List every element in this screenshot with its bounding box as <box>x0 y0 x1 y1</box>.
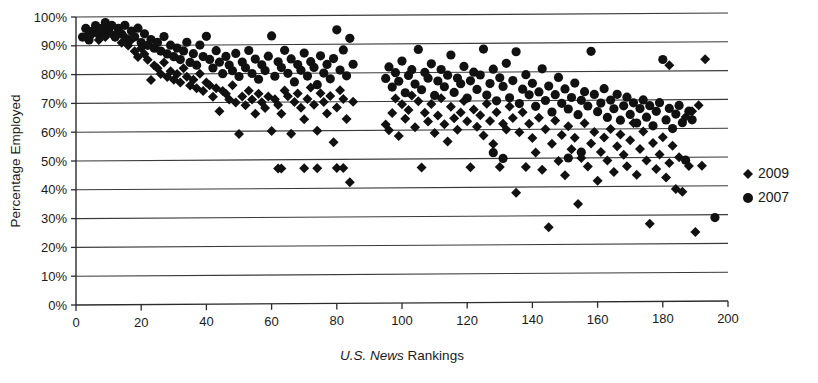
data-point-2007 <box>205 55 214 64</box>
data-point-2007 <box>394 77 403 86</box>
data-point-2007 <box>531 102 540 111</box>
y-tick-label: 60% <box>41 125 67 140</box>
chart-canvas: 0%10%20%30%40%50%60%70%80%90%100% 020406… <box>0 0 818 383</box>
data-point-2007 <box>596 98 605 107</box>
data-point-2007 <box>593 107 602 116</box>
data-point-2007 <box>440 82 449 91</box>
data-point-2007 <box>498 154 507 163</box>
data-point-2007 <box>554 73 563 82</box>
y-tick-label: 50% <box>41 154 67 169</box>
legend-marker-2007 <box>743 193 753 203</box>
data-point-2007 <box>427 59 436 68</box>
data-point-2007 <box>309 63 318 72</box>
data-point-2007 <box>655 98 664 107</box>
data-point-2007 <box>234 72 243 81</box>
data-point-2007 <box>482 91 491 100</box>
data-point-2007 <box>332 25 341 34</box>
x-tick-label: 80 <box>330 313 344 328</box>
data-point-2007 <box>218 69 227 78</box>
y-tick-label: 90% <box>41 38 67 53</box>
data-point-2007 <box>339 45 348 54</box>
data-point-2007 <box>652 107 661 116</box>
data-point-2007 <box>479 44 488 53</box>
data-point-2007 <box>290 77 299 86</box>
data-point-2007 <box>391 68 400 77</box>
x-tick-label: 160 <box>587 312 609 327</box>
data-point-2007 <box>600 84 609 93</box>
y-tick-label: 0% <box>48 298 67 313</box>
data-point-2007 <box>626 110 635 119</box>
data-point-2007 <box>551 90 560 99</box>
data-point-2007 <box>459 62 468 71</box>
data-point-2007 <box>528 79 537 88</box>
data-point-2007 <box>283 69 292 78</box>
data-point-2007 <box>231 49 240 58</box>
data-point-2007 <box>619 101 628 110</box>
data-point-2007 <box>564 153 573 162</box>
data-point-2007 <box>570 78 579 87</box>
data-point-2007 <box>326 74 335 83</box>
data-point-2007 <box>300 48 309 57</box>
data-point-2007 <box>407 65 416 74</box>
data-point-2007 <box>586 47 595 56</box>
data-point-2007 <box>580 87 589 96</box>
data-point-2007 <box>671 110 680 119</box>
data-point-2007 <box>182 38 191 47</box>
data-point-2007 <box>609 104 618 113</box>
data-point-2007 <box>603 113 612 122</box>
data-point-2007 <box>495 73 504 82</box>
data-point-2007 <box>541 96 550 105</box>
data-point-2007 <box>244 46 253 55</box>
data-point-2007 <box>538 64 547 73</box>
data-point-2007 <box>635 104 644 113</box>
data-point-2007 <box>270 72 279 81</box>
data-point-2007 <box>417 85 426 94</box>
data-point-2007 <box>202 32 211 41</box>
data-point-2007 <box>303 71 312 80</box>
x-tick-label: 200 <box>717 311 739 326</box>
x-tick-label: 20 <box>134 315 148 330</box>
data-point-2007 <box>560 84 569 93</box>
data-point-2007 <box>476 70 485 79</box>
y-tick-label: 20% <box>41 240 67 255</box>
data-point-2007 <box>489 148 498 157</box>
x-tick-label: 0 <box>72 315 79 330</box>
data-point-2007 <box>280 46 289 55</box>
data-point-2007 <box>264 52 273 61</box>
x-axis-title-italic: U.S. News <box>340 348 408 363</box>
data-point-2007 <box>492 96 501 105</box>
y-tick-label: 40% <box>41 182 67 197</box>
x-tick-label: 140 <box>522 312 544 327</box>
y-tick-label: 10% <box>41 269 67 284</box>
data-point-2007 <box>521 70 530 79</box>
data-point-2007 <box>349 60 358 69</box>
data-point-2007 <box>616 116 625 125</box>
data-point-2007 <box>534 87 543 96</box>
y-tick-label: 100% <box>34 10 68 25</box>
x-tick-label: 100 <box>391 313 413 328</box>
data-point-2007 <box>176 55 185 64</box>
x-axis-title: U.S. News Rankings <box>340 348 464 363</box>
data-point-2007 <box>446 50 455 59</box>
data-point-2007 <box>192 61 201 70</box>
data-point-2007 <box>505 93 514 102</box>
data-point-2007 <box>511 47 520 56</box>
data-point-2007 <box>515 99 524 108</box>
data-point-2007 <box>254 75 263 84</box>
data-point-2007 <box>567 93 576 102</box>
svg-text:U.S. News Rankings: U.S. News Rankings <box>340 348 464 363</box>
data-point-2007 <box>195 40 204 49</box>
data-point-2007 <box>498 82 507 91</box>
x-tick-label: 180 <box>652 311 674 326</box>
data-point-2007 <box>450 88 459 97</box>
data-point-2007 <box>564 104 573 113</box>
y-tick-label: 80% <box>41 67 67 82</box>
data-point-2007 <box>414 45 423 54</box>
legend-label-2009: 2009 <box>758 165 789 181</box>
scatter-chart: 0%10%20%30%40%50%60%70%80%90%100% 020406… <box>0 0 818 383</box>
data-point-2007 <box>179 46 188 55</box>
data-point-2007 <box>675 101 684 110</box>
data-point-2007 <box>329 54 338 63</box>
data-point-2007 <box>485 79 494 88</box>
data-point-2007 <box>456 79 465 88</box>
